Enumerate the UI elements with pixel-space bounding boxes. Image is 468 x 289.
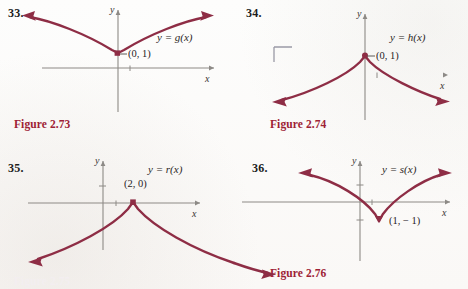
point-label-33: (0, 1) [128, 48, 151, 59]
cusp-point-marker [130, 199, 136, 205]
curve-right-arrow-icon [435, 97, 450, 106]
point-label-36: (1, − 1) [389, 215, 420, 226]
cusp-point-marker [115, 50, 120, 55]
curve-left-arrow-icon [298, 168, 313, 177]
x-axis-label: x [440, 80, 444, 91]
figure-panel-34: 34. x y y = h(x) (0, 1) Figure 2.74 [234, 0, 468, 145]
curve-right-arrow-icon [200, 11, 214, 21]
curve-right-branch [365, 56, 440, 99]
x-axis-label: x [192, 208, 196, 219]
corner-bracket-artifact-icon [274, 47, 292, 62]
curve-left-branch [30, 17, 118, 53]
figure-caption-33: Figure 2.73 [14, 118, 70, 130]
figure-panel-33: 33. x y y = g(x) (0, 1) Figure 2.73 [0, 0, 234, 145]
curve-right-arrow-icon [437, 168, 452, 177]
x-axis-label: x [205, 73, 209, 84]
y-axis-label: y [357, 8, 361, 19]
figure-caption-35: Figure 2.75 [14, 275, 70, 287]
y-axis-label: y [352, 155, 356, 166]
y-axis-arrow-icon [116, 10, 121, 15]
function-label-33: y = g(x) [157, 31, 193, 43]
y-axis-arrow-icon [358, 161, 363, 166]
curve-left-arrow-icon [272, 97, 287, 106]
y-axis-arrow-icon [363, 14, 368, 19]
figure-panel-36: 36. x y y = s(x) (1, − 1) Figure 2.76 [234, 145, 468, 289]
curve-left-branch [282, 56, 365, 100]
function-label-36: y = s(x) [382, 163, 416, 175]
point-label-35: (2, 0) [124, 178, 147, 189]
point-label-34: (0, 1) [376, 50, 399, 61]
curve-left-branch [310, 175, 379, 221]
curve-left-arrow-icon [22, 11, 36, 21]
function-label-34: y = h(x) [390, 31, 426, 43]
figure-caption-36: Figure 2.76 [270, 267, 326, 279]
curve-left-branch [38, 202, 133, 259]
graph-35 [0, 145, 234, 289]
curve-left-arrow-icon [28, 257, 43, 266]
function-label-35: y = r(x) [148, 163, 182, 175]
x-axis-arrow-icon [445, 200, 450, 205]
y-axis-label: y [110, 4, 114, 15]
x-axis-label: x [442, 207, 446, 218]
x-axis-arrow-icon [443, 73, 448, 78]
y-axis-arrow-icon [101, 161, 106, 166]
x-axis-arrow-icon [209, 66, 214, 71]
figure-panel-35: 35. x y y = r(x) (2, 0) Figure 2.75 [0, 145, 234, 289]
curve-right-branch [133, 202, 234, 263]
y-axis-label: y [95, 155, 99, 166]
cusp-point-marker [375, 216, 383, 223]
figure-caption-34: Figure 2.74 [270, 118, 326, 130]
x-axis-arrow-icon [195, 201, 200, 206]
